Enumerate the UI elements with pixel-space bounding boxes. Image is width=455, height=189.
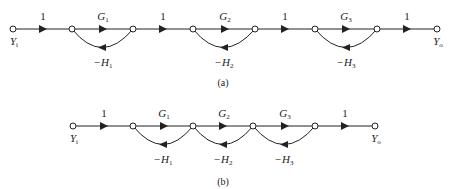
branch-label-g1: G1 — [158, 108, 169, 121]
output-node-label: Yo — [371, 133, 381, 146]
branch-label: 1 — [342, 108, 348, 119]
branch-label-g3: G3 — [279, 108, 290, 121]
feedback-label-h1: −H1 — [154, 154, 173, 167]
feedback-label-h3: −H3 — [275, 154, 294, 167]
caption-b: (b) — [217, 176, 229, 187]
branch-label: 1 — [101, 108, 107, 119]
input-node-label: Yi — [70, 133, 78, 146]
branch-label-g2: G2 — [218, 108, 229, 121]
feedback-label-h2: −H2 — [214, 154, 233, 167]
